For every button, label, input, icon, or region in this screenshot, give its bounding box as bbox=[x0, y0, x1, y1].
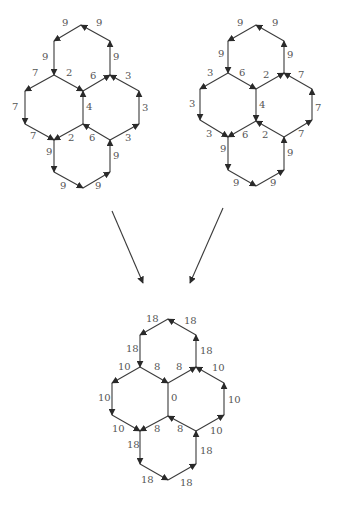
edge-flow-label: 8 bbox=[176, 361, 182, 372]
edge-flow-label: 10 bbox=[118, 361, 131, 372]
edge-flow-label: 10 bbox=[228, 394, 241, 405]
right-hexagon-flow: 9999362734362779999 bbox=[189, 17, 321, 188]
edge-flow-label: 0 bbox=[171, 392, 177, 403]
right-to-sum-arrow bbox=[190, 208, 223, 283]
edge-flow-label: 7 bbox=[30, 130, 36, 141]
flow-edge bbox=[54, 172, 83, 188]
combine-arrows bbox=[112, 208, 223, 283]
edge-flow-label: 18 bbox=[180, 477, 193, 488]
edge-flow-label: 3 bbox=[189, 98, 195, 109]
edge-flow-label: 18 bbox=[126, 343, 139, 354]
edge-flow-label: 9 bbox=[95, 180, 101, 191]
edge-flow-label: 8 bbox=[154, 423, 160, 434]
edge-flow-label: 7 bbox=[315, 102, 321, 113]
edge-flow-label: 7 bbox=[298, 128, 304, 139]
flow-edge bbox=[25, 75, 54, 91]
edge-flow-label: 10 bbox=[212, 362, 225, 373]
edge-flow-label: 6 bbox=[90, 70, 96, 81]
edge-flow-label: 7 bbox=[298, 69, 304, 80]
edge-flow-label: 7 bbox=[12, 101, 18, 112]
edge-flow-label: 3 bbox=[206, 128, 212, 139]
flow-edge bbox=[83, 124, 110, 140]
edge-flow-label: 9 bbox=[220, 143, 226, 154]
edge-flow-label: 9 bbox=[60, 180, 66, 191]
flow-edge bbox=[256, 121, 284, 137]
edge-flow-label: 9 bbox=[113, 150, 119, 161]
edge-flow-label: 9 bbox=[42, 51, 48, 62]
edge-flow-label: 6 bbox=[239, 67, 245, 78]
flow-edge bbox=[200, 120, 228, 137]
edge-flow-label: 3 bbox=[142, 102, 148, 113]
edge-flow-label: 2 bbox=[262, 129, 268, 140]
left-hexagon-flow: 9999726374726339999 bbox=[12, 17, 148, 191]
flow-diagram-canvas: 9999726374726339999 9999362734362779999 … bbox=[0, 0, 338, 508]
edge-flow-label: 2 bbox=[68, 132, 74, 143]
flow-edge bbox=[83, 75, 110, 91]
edge-flow-label: 18 bbox=[146, 313, 159, 324]
edge-flow-label: 6 bbox=[242, 129, 248, 140]
edge-flow-label: 3 bbox=[207, 67, 213, 78]
edge-flow-label: 2 bbox=[66, 67, 72, 78]
flow-edge bbox=[256, 25, 284, 41]
flow-edge bbox=[200, 73, 228, 89]
edge-flow-label: 7 bbox=[32, 67, 38, 78]
edge-flow-label: 9 bbox=[287, 147, 293, 158]
edge-flow-label: 9 bbox=[218, 48, 224, 59]
edge-flow-label: 8 bbox=[177, 423, 183, 434]
edge-flow-label: 18 bbox=[200, 345, 213, 356]
edge-flow-label: 9 bbox=[113, 51, 119, 62]
edge-flow-label: 9 bbox=[62, 17, 68, 28]
edge-flow-label: 9 bbox=[237, 17, 243, 28]
edge-flow-label: 9 bbox=[272, 17, 278, 28]
edge-flow-label: 2 bbox=[263, 69, 269, 80]
edge-flow-label: 9 bbox=[287, 49, 293, 60]
edge-flow-label: 18 bbox=[184, 315, 197, 326]
edge-flow-label: 8 bbox=[154, 361, 160, 372]
edge-flow-label: 9 bbox=[233, 177, 239, 188]
edge-flow-label: 10 bbox=[210, 425, 223, 436]
left-to-sum-arrow bbox=[112, 211, 143, 283]
edge-flow-label: 4 bbox=[259, 99, 265, 110]
edge-flow-label: 10 bbox=[98, 392, 111, 403]
edge-flow-label: 10 bbox=[112, 423, 125, 434]
edge-flow-label: 3 bbox=[125, 132, 131, 143]
edge-flow-label: 18 bbox=[141, 474, 154, 485]
edge-flow-label: 18 bbox=[127, 439, 140, 450]
summed-hexagon-flow: 181818181088101001088101018181818 bbox=[98, 313, 241, 488]
edge-flow-label: 6 bbox=[89, 132, 95, 143]
edge-flow-label: 4 bbox=[86, 101, 92, 112]
edge-flow-label: 9 bbox=[46, 146, 52, 157]
flow-edge bbox=[256, 73, 284, 89]
edge-flow-label: 3 bbox=[125, 70, 131, 81]
edge-flow-label: 9 bbox=[96, 17, 102, 28]
edge-flow-label: 18 bbox=[200, 445, 213, 456]
edge-flow-label: 9 bbox=[270, 177, 276, 188]
